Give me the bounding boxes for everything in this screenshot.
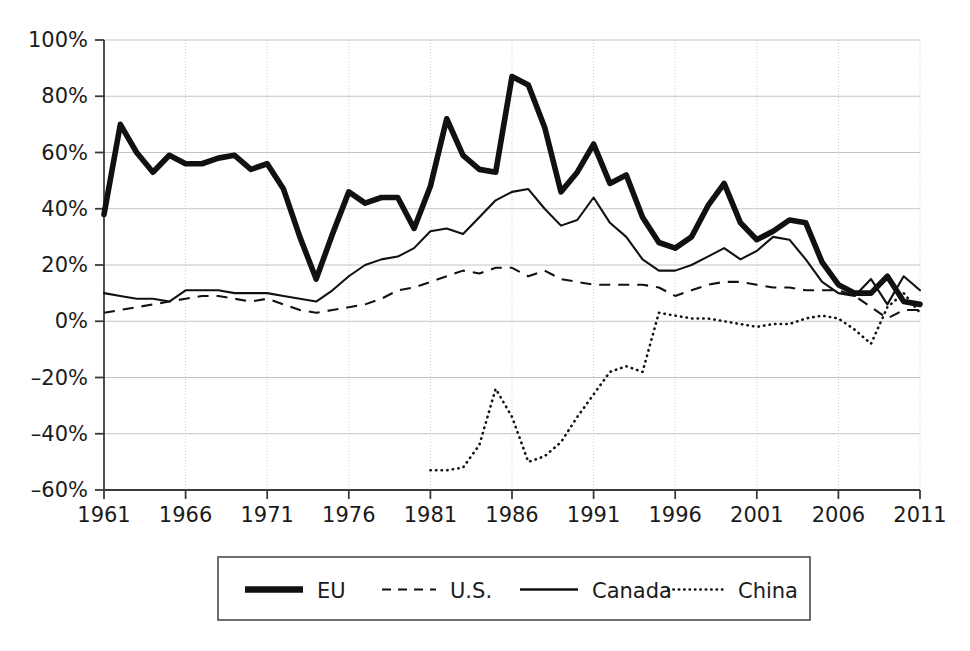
chart-legend: EUU.S.CanadaChina	[218, 557, 810, 620]
legend-label: Canada	[592, 579, 672, 603]
y-axis-tick-label: –20%	[31, 366, 88, 390]
x-axis-tick-label: 1966	[159, 503, 212, 527]
y-axis-tick-label: 60%	[41, 141, 88, 165]
y-axis-tick-label: 0%	[55, 309, 88, 333]
y-axis-tick-label: 40%	[41, 197, 88, 221]
y-axis-tick-label: 100%	[28, 28, 88, 52]
line-chart-figure: –60%–40%–20%0%20%40%60%80%100% 196119661…	[0, 0, 970, 651]
x-axis-tick-label: 1986	[485, 503, 538, 527]
legend-label: U.S.	[450, 579, 492, 603]
x-axis-tick-label: 2001	[730, 503, 783, 527]
legend-label: EU	[317, 579, 346, 603]
x-axis-tick-label: 1991	[567, 503, 620, 527]
chart-background	[0, 0, 970, 651]
y-axis-tick-label: –60%	[31, 478, 88, 502]
x-axis-tick-label: 1996	[648, 503, 701, 527]
x-axis-tick-label: 1981	[404, 503, 457, 527]
x-axis-tick-label: 1971	[240, 503, 293, 527]
x-axis-tick-label: 1976	[322, 503, 375, 527]
chart-container: –60%–40%–20%0%20%40%60%80%100% 196119661…	[0, 0, 970, 651]
y-axis-tick-label: 20%	[41, 253, 88, 277]
y-axis-tick-label: 80%	[41, 84, 88, 108]
legend-label: China	[738, 579, 798, 603]
x-axis-tick-label: 1961	[77, 503, 130, 527]
x-axis-tick-label: 2006	[812, 503, 865, 527]
y-axis-tick-label: –40%	[31, 422, 88, 446]
x-axis-tick-label: 2011	[893, 503, 946, 527]
x-axis-tick-labels: 1961196619711976198119861991199620012006…	[77, 503, 946, 527]
